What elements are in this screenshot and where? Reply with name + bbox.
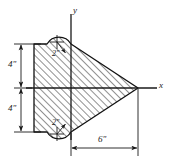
dimension-label-upper-height: 4" [8,60,16,69]
figure-drawing [0,0,172,165]
dimension-label-base-to-apex: 6" [98,135,106,144]
dimension-label-lower-height: 4" [8,104,16,113]
y-axis-label: y [73,6,77,15]
x-axis-label: x [159,81,163,90]
radius-label-upper-notch: 2" [52,50,59,58]
radius-label-lower-notch: 2" [52,119,59,127]
engineering-figure: y x 4" 4" 6" 2" 2" [0,0,172,165]
